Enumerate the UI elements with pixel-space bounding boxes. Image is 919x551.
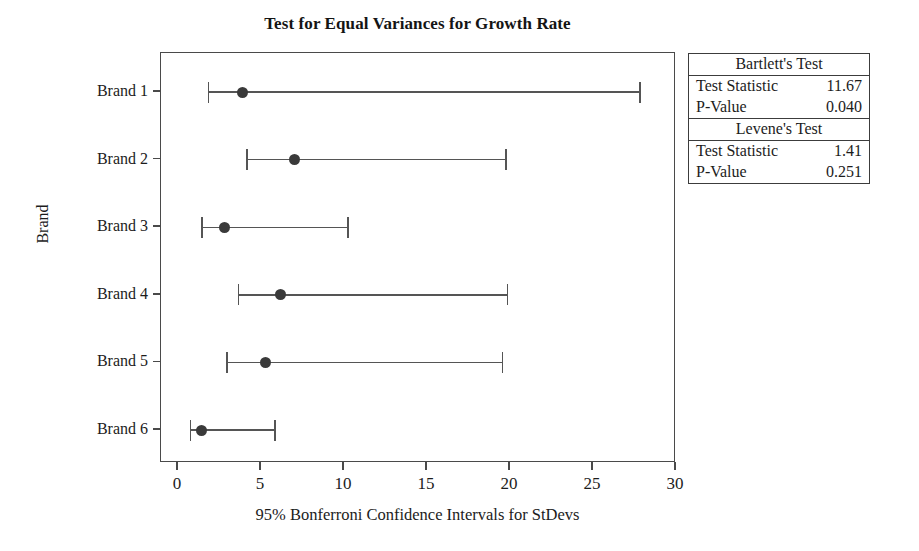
results-section: Bartlett's TestTest Statistic11.67P-Valu…	[689, 54, 869, 118]
interval-upper-cap	[502, 352, 504, 373]
x-axis-title: 95% Bonferroni Confidence Intervals for …	[160, 505, 675, 525]
interval-upper-cap	[347, 217, 349, 238]
results-row-value: 11.67	[827, 77, 862, 95]
results-row: Test Statistic11.67	[689, 76, 869, 97]
x-tick-label-0: 0	[147, 474, 207, 494]
x-tick-label-30: 30	[645, 474, 705, 494]
stdev-point-marker	[237, 87, 248, 98]
y-tick-mark	[153, 90, 160, 92]
stdev-point-marker	[289, 154, 300, 165]
x-tick-mark	[591, 462, 593, 470]
y-tick-mark	[153, 158, 160, 160]
results-section: Levene's TestTest Statistic1.41P-Value0.…	[689, 118, 869, 183]
results-row-value: 0.040	[826, 98, 862, 116]
chart-page: Test for Equal Variances for Growth Rate…	[0, 0, 919, 551]
results-row-value: 0.251	[826, 163, 862, 181]
interval-line	[246, 159, 505, 160]
interval-lower-cap	[208, 82, 210, 103]
y-tick-mark	[153, 428, 160, 430]
results-row: P-Value0.040	[689, 97, 869, 118]
y-tick-label-brand-3: Brand 3	[48, 217, 148, 235]
results-row-value: 1.41	[834, 142, 862, 160]
results-section-header: Bartlett's Test	[689, 54, 869, 76]
x-tick-label-25: 25	[562, 474, 622, 494]
x-tick-label-5: 5	[230, 474, 290, 494]
results-row-label: P-Value	[696, 163, 747, 181]
results-row-label: Test Statistic	[696, 142, 778, 160]
interval-lower-cap	[190, 420, 192, 441]
x-tick-mark	[425, 462, 427, 470]
x-tick-mark	[259, 462, 261, 470]
page-title: Test for Equal Variances for Growth Rate	[160, 14, 675, 34]
interval-lower-cap	[201, 217, 203, 238]
stdev-point-marker	[219, 222, 230, 233]
x-tick-mark	[342, 462, 344, 470]
results-row: P-Value0.251	[689, 162, 869, 183]
x-tick-mark	[674, 462, 676, 470]
x-tick-label-20: 20	[479, 474, 539, 494]
interval-lower-cap	[238, 284, 240, 305]
interval-lower-cap	[226, 352, 228, 373]
interval-upper-cap	[274, 420, 276, 441]
y-tick-label-brand-4: Brand 4	[48, 285, 148, 303]
y-tick-label-brand-6: Brand 6	[48, 420, 148, 438]
x-tick-label-15: 15	[396, 474, 456, 494]
results-row-label: Test Statistic	[696, 77, 778, 95]
y-tick-label-brand-1: Brand 1	[48, 82, 148, 100]
results-row: Test Statistic1.41	[689, 141, 869, 162]
results-row-label: P-Value	[696, 98, 747, 116]
y-tick-mark	[153, 293, 160, 295]
x-tick-mark	[176, 462, 178, 470]
interval-upper-cap	[507, 284, 509, 305]
x-tick-mark	[508, 462, 510, 470]
results-section-header: Levene's Test	[689, 119, 869, 141]
y-tick-mark	[153, 225, 160, 227]
y-tick-label-brand-5: Brand 5	[48, 352, 148, 370]
stdev-point-marker	[196, 425, 207, 436]
y-tick-label-brand-2: Brand 2	[48, 150, 148, 168]
statistical-results-box: Bartlett's TestTest Statistic11.67P-Valu…	[688, 53, 870, 184]
interval-line	[208, 91, 640, 92]
stdev-point-marker	[275, 289, 286, 300]
interval-lower-cap	[246, 149, 248, 170]
interval-upper-cap	[639, 82, 641, 103]
plot-area	[160, 52, 675, 462]
interval-upper-cap	[505, 149, 507, 170]
stdev-point-marker	[260, 357, 271, 368]
y-tick-mark	[153, 361, 160, 363]
x-tick-label-10: 10	[313, 474, 373, 494]
